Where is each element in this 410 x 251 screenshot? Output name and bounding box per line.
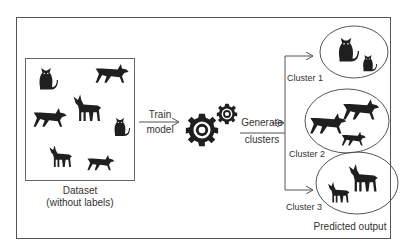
dataset-cat-1	[40, 68, 58, 90]
dataset-dog-1	[96, 64, 129, 83]
train-label-2: model	[140, 124, 180, 136]
cluster-3-label: Cluster 3	[286, 201, 322, 213]
train-label-1: Train	[140, 109, 180, 121]
cluster-3-ellipse	[316, 152, 398, 214]
gears-icon	[186, 104, 237, 146]
cluster-1-label: Cluster 1	[287, 72, 323, 84]
dataset-cat-2	[115, 118, 130, 136]
dataset-dog-2	[34, 108, 67, 127]
dataset-subtitle: (without labels)	[25, 197, 135, 209]
generate-label-2: clusters	[240, 134, 284, 146]
dataset-dog-3	[87, 155, 114, 170]
dataset-goat-2	[49, 145, 72, 167]
cluster-1-ellipse	[320, 26, 388, 78]
predicted-output-label: Predicted output	[312, 221, 388, 233]
generate-label-1: Generate	[240, 117, 284, 129]
dataset-goat-1	[74, 95, 102, 121]
dataset-title: Dataset	[25, 185, 135, 197]
diagram-graphics	[0, 0, 410, 251]
cluster-2-label: Cluster 2	[289, 148, 325, 160]
